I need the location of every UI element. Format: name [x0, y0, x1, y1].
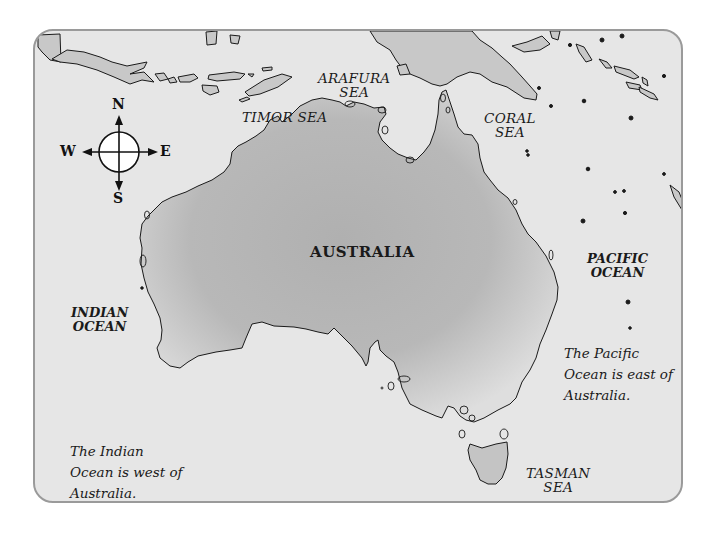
sea-label-coral-line1: CORAL	[484, 111, 536, 125]
compass-north-label: N	[112, 96, 125, 112]
sea-label-tasman-line2: SEA	[526, 480, 590, 494]
ocean-label-pacific: PACIFIC OCEAN	[587, 252, 648, 279]
sea-label-coral: CORAL SEA	[484, 111, 536, 139]
compass-west-label: W	[60, 143, 76, 159]
sea-label-arafura-line2: SEA	[318, 85, 390, 99]
indian-ocean-note: The Indian Ocean is west of Australia.	[70, 441, 188, 503]
pacific-ocean-note: The Pacific Ocean is east of Australia.	[564, 343, 683, 406]
map-frame: N S W E AUSTRALIA TIMOR SEA ARAFURA SEA …	[33, 29, 683, 503]
sea-label-coral-line2: SEA	[484, 125, 536, 139]
ocean-label-indian: INDIAN OCEAN	[71, 306, 128, 333]
sea-label-arafura-line1: ARAFURA	[318, 71, 390, 85]
ocean-label-pacific-line2: OCEAN	[587, 266, 648, 280]
ocean-label-pacific-line1: PACIFIC	[587, 252, 648, 266]
country-label-australia: AUSTRALIA	[310, 245, 415, 261]
compass-east-label: E	[160, 143, 171, 159]
sea-label-arafura: ARAFURA SEA	[318, 71, 390, 99]
compass-south-label: S	[113, 190, 123, 206]
sea-label-timor: TIMOR SEA	[242, 110, 327, 124]
ocean-label-indian-line1: INDIAN	[71, 306, 128, 320]
sea-label-tasman: TASMAN SEA	[526, 466, 590, 494]
ocean-label-indian-line2: OCEAN	[71, 320, 128, 334]
compass-rose-icon	[35, 31, 683, 503]
sea-label-tasman-line1: TASMAN	[526, 466, 590, 480]
